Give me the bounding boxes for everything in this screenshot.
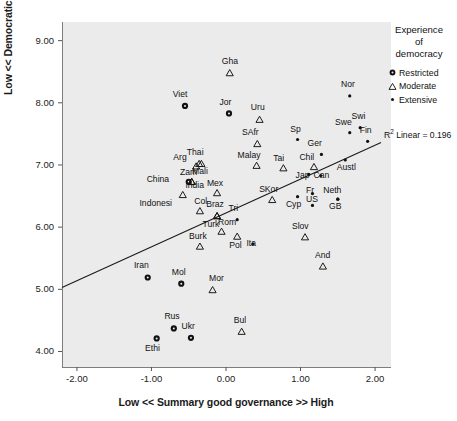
point-label-swe: Swe	[335, 118, 352, 127]
point-label-burk: Burk	[189, 232, 207, 241]
point-label-gb: GB	[329, 202, 341, 211]
point-label-austl: Austl	[337, 163, 356, 172]
point-label-can: Can	[313, 171, 329, 180]
point-label-arg: Arg	[173, 153, 186, 162]
legend-title: Experience of democracy	[383, 24, 455, 60]
point-label-thai: Thai	[187, 148, 204, 157]
point-label-jor: Jor	[220, 98, 232, 107]
point-label-col: Col	[194, 197, 207, 206]
point-label-cyp: Cyp	[286, 200, 301, 209]
x-tick-label: -2.00	[52, 373, 102, 384]
open-triangle-icon	[386, 82, 399, 91]
r-squared-annotation: R2 Linear = 0.196	[384, 128, 451, 140]
legend-title-line-1: Experience	[383, 24, 455, 36]
legend-title-line-3: democracy	[383, 48, 455, 60]
point-label-gha: Gha	[222, 57, 238, 66]
point-label-ita: Ita	[246, 239, 256, 248]
point-label-viet: Viet	[173, 90, 188, 99]
point-label-india: India	[185, 181, 204, 190]
point-label-bul: Bul	[234, 316, 246, 325]
y-tick-label: 8.00	[12, 97, 54, 108]
point-label-indonesi: Indonesi	[139, 199, 172, 208]
point-label-pol: Pol	[229, 241, 241, 250]
point-label-malay: Malay	[238, 151, 261, 160]
point-label-zam: Zam	[180, 168, 197, 177]
point-label-swi: Swi	[351, 112, 365, 121]
point-label-tai: Tai	[273, 154, 284, 163]
plot-area	[62, 22, 391, 368]
point-label-jap: Jap	[296, 171, 310, 180]
r-squared-value: Linear = 0.196	[394, 130, 452, 140]
y-tick-label: 5.00	[12, 283, 54, 294]
point-label-iran: Iran	[134, 261, 149, 270]
point-label-mex: Mex	[207, 179, 223, 188]
point-label-china: China	[147, 175, 169, 184]
point-label-turk: Turk	[202, 220, 219, 229]
x-tick-label: -1.00	[126, 373, 176, 384]
point-label-fin: Fin	[360, 126, 372, 135]
legend-entry-moderate: Moderate	[386, 80, 457, 92]
y-tick-label: 4.00	[12, 345, 54, 356]
legend-entry-extensive: Extensive	[386, 94, 457, 106]
legend-entry-restricted: Restricted	[386, 67, 457, 79]
point-label-mor: Mor	[209, 274, 224, 283]
point-label-ethi: Ethi	[145, 344, 160, 353]
small-dot-icon	[386, 95, 399, 104]
y-axis-label-container: Low << Democratic satisfaction >> High	[4, 0, 20, 380]
x-tick-label: 2.00	[350, 373, 400, 384]
legend-label-moderate: Moderate	[399, 81, 436, 91]
point-label-mol: Mol	[172, 268, 186, 277]
x-tick-label: 1.00	[276, 373, 326, 384]
point-label-skor: SKor	[259, 185, 278, 194]
scatter-plot-figure: Low << Democratic satisfaction >> High L…	[0, 0, 457, 421]
point-label-braz: Braz	[206, 200, 224, 209]
point-label-tri: Tri	[228, 204, 238, 213]
filled-circle-icon	[386, 68, 399, 77]
point-label-rom: Rom	[218, 218, 236, 227]
y-tick-label: 7.00	[12, 159, 54, 170]
legend-entries: Restricted Moderate Extensive	[383, 67, 457, 106]
point-label-rus: Rus	[164, 312, 179, 321]
point-label-safr: SAfr	[242, 128, 259, 137]
point-label-ukr: Ukr	[182, 322, 195, 331]
point-label-us: US	[306, 195, 318, 204]
point-label-neth: Neth	[323, 186, 341, 195]
point-label-slov: Slov	[292, 222, 309, 231]
legend-label-restricted: Restricted	[399, 68, 439, 78]
point-label-ger: Ger	[308, 139, 322, 148]
point-label-sp: Sp	[290, 125, 301, 134]
y-tick-label: 9.00	[12, 35, 54, 46]
point-label-uru: Uru	[251, 103, 265, 112]
y-tick-label: 6.00	[12, 221, 54, 232]
x-axis-label: Low << Summary good governance >> High	[62, 396, 390, 408]
legend-label-extensive: Extensive	[399, 95, 437, 105]
legend-title-line-2: of	[383, 36, 455, 48]
x-tick-label: 0.00	[201, 373, 251, 384]
point-label-chil: Chil	[299, 153, 314, 162]
point-label-and: And	[315, 251, 330, 260]
point-label-nor: Nor	[341, 80, 355, 89]
legend: Experience of democracy Restricted Moder…	[383, 24, 457, 107]
y-axis-label: Low << Democratic satisfaction >> High	[2, 0, 14, 95]
